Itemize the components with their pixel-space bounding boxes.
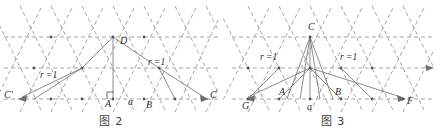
label-A-fig3: A xyxy=(278,86,286,97)
figure-pair-page: C' A a B C D r =1 r =1 图 2 xyxy=(0,0,444,140)
figure-2: C' A a B C D r =1 r =1 图 2 xyxy=(0,0,222,140)
label-r-left-fig3: r =1 xyxy=(260,52,277,62)
figure-3-canvas: G A a B F C r =1 r =1 xyxy=(222,0,444,112)
figure-3: G A a B F C r =1 r =1 图 3 xyxy=(222,0,444,140)
figure-3-caption: 图 3 xyxy=(222,112,444,128)
segment-left-node-to-G xyxy=(248,68,279,99)
label-A-fig2: A xyxy=(104,98,112,109)
lattice-grid-fig2 xyxy=(0,6,218,112)
label-F-fig3: F xyxy=(406,95,414,106)
figure-2-caption: 图 2 xyxy=(0,112,222,128)
label-B-fig3: B xyxy=(335,86,341,97)
label-C-fig3: C xyxy=(308,21,315,32)
label-C-fig2: C xyxy=(210,89,217,100)
figure-2-canvas: C' A a B C D r =1 r =1 xyxy=(0,0,222,112)
segment-radius-right xyxy=(159,68,175,99)
label-a-fig2: a xyxy=(128,96,133,107)
label-a-fig3: a xyxy=(307,101,312,112)
arrow-to-C xyxy=(200,95,209,102)
arrow-to-F xyxy=(397,95,406,102)
label-r-right-fig2: r =1 xyxy=(148,57,165,67)
label-C-prime-fig2: C' xyxy=(4,89,14,100)
segment-Pright-to-C xyxy=(159,68,204,97)
label-r-left-fig2: r =1 xyxy=(40,70,57,80)
label-B-fig2: B xyxy=(146,99,152,110)
segment-C-to-B xyxy=(310,37,333,99)
arrow-to-Cprime xyxy=(18,95,27,102)
label-G-fig3: G xyxy=(242,100,249,111)
label-r-right-fig3: r =1 xyxy=(340,52,357,62)
label-D-fig2: D xyxy=(119,35,128,46)
segment-right-node-to-F xyxy=(341,68,372,99)
